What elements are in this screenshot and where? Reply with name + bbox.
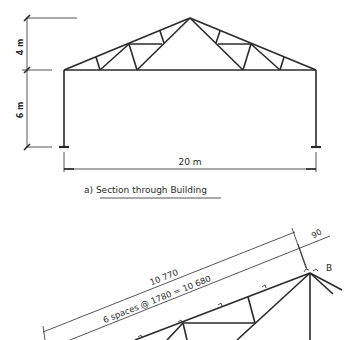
span-label: 20 m bbox=[178, 157, 201, 167]
spacing-dimension-line bbox=[70, 236, 330, 340]
figure-caption: a) Section through Building bbox=[84, 185, 207, 195]
height-dimension bbox=[22, 15, 77, 150]
rafter-detail: 10 770 6 spaces @ 1780 = 10 680 90 B bbox=[43, 227, 342, 340]
purlin-cleat bbox=[218, 303, 222, 306]
offset-label: 90 bbox=[310, 227, 323, 240]
dim-label-4m: 4 m bbox=[16, 39, 25, 56]
purlin-cleat bbox=[262, 285, 266, 288]
roof-truss bbox=[64, 18, 316, 70]
section-through-building: 4 m 6 m bbox=[16, 15, 321, 198]
drawing-canvas: 4 m 6 m bbox=[0, 0, 351, 340]
overall-dimension-line bbox=[43, 232, 295, 332]
dim-label-6m: 6 m bbox=[16, 102, 25, 119]
node-b-label: B bbox=[326, 263, 332, 273]
